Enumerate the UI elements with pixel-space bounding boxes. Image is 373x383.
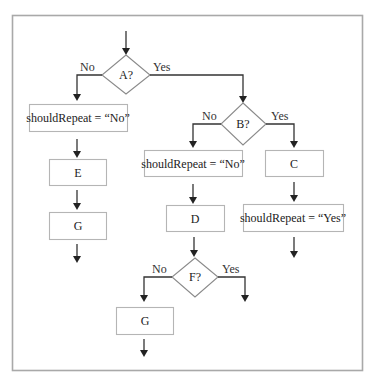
box-d: D: [167, 206, 225, 232]
decision-a-no-branch: No: [73, 60, 102, 101]
box-g-bottom: G: [117, 308, 174, 335]
box-a-no-set-label: shouldRepeat = “No”: [26, 111, 129, 125]
box-d-label: D: [191, 212, 200, 226]
decision-a-yes-branch: Yes: [150, 60, 247, 103]
decision-a: A?: [102, 55, 150, 94]
decision-b-yes-branch: Yes: [266, 109, 298, 148]
box-g-left: G: [50, 213, 107, 240]
arrow-to-yes-set: [290, 182, 298, 202]
arrow-to-e: [73, 139, 81, 158]
decision-f: F?: [172, 258, 218, 297]
box-g-left-label: G: [74, 219, 83, 233]
decision-a-yes-label: Yes: [153, 60, 171, 74]
decision-b: B?: [221, 103, 266, 145]
decision-f-yes-branch: Yes: [218, 262, 249, 302]
decision-a-label: A?: [119, 68, 133, 82]
box-b-no-set: shouldRepeat = “No”: [141, 151, 244, 177]
box-b-yes-set: shouldRepeat = “Yes”: [240, 205, 346, 232]
box-a-no-set: shouldRepeat = “No”: [26, 105, 129, 132]
arrow-to-d: [189, 184, 197, 204]
decision-b-yes-label: Yes: [271, 109, 289, 123]
decision-f-no-label: No: [152, 262, 167, 276]
box-b-no-set-label: shouldRepeat = “No”: [141, 157, 244, 171]
arrow-to-f: [190, 237, 198, 257]
arrow-exit-left: [73, 244, 81, 263]
decision-f-no-branch: No: [140, 262, 172, 302]
arrow-exit-bottom: [140, 339, 148, 357]
decision-b-no-branch: No: [189, 109, 221, 148]
diagram-frame: [13, 16, 363, 371]
decision-a-no-label: No: [80, 60, 95, 74]
box-e: E: [50, 160, 107, 186]
flowchart: A? No Yes shouldRepeat = “No” E G B?: [0, 0, 373, 383]
arrow-to-g-left: [73, 190, 81, 210]
box-e-label: E: [74, 166, 81, 180]
decision-b-label: B?: [236, 117, 249, 131]
entry-arrow: [122, 31, 130, 55]
box-g-bottom-label: G: [141, 314, 150, 328]
decision-f-yes-label: Yes: [222, 262, 240, 276]
arrow-exit-right: [290, 237, 298, 258]
box-c-label: C: [290, 157, 298, 171]
decision-f-label: F?: [189, 270, 201, 284]
box-b-yes-set-label: shouldRepeat = “Yes”: [240, 211, 346, 225]
decision-b-no-label: No: [202, 109, 217, 123]
box-c: C: [266, 151, 324, 177]
